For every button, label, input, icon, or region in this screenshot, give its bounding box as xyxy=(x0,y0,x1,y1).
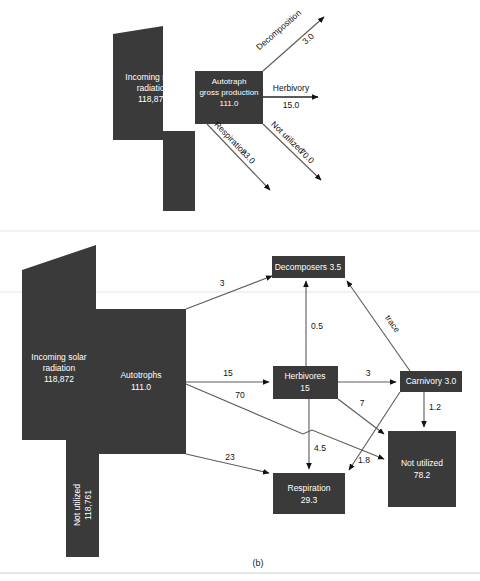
figure-canvas: Incoming solar radiation 118,872 Autotra… xyxy=(0,0,480,581)
svg-text:trace: trace xyxy=(383,313,402,334)
panel-a-flow-not-utilized xyxy=(263,124,321,180)
panel-b-flow-autotrophs-herbivores-label: 15 xyxy=(223,368,233,378)
panel-a-flow-decomposition-value: 3.0 xyxy=(300,31,316,46)
panel-b-flow-carnivory-respiration-label: 1.8 xyxy=(358,455,370,465)
svg-text:Respiration: Respiration xyxy=(288,483,331,493)
panel-a-flow-herbivory-value: 15.0 xyxy=(283,100,300,110)
panel-b-flow-carnivory-notutilized-label: 1.2 xyxy=(429,402,441,412)
svg-text:3.0: 3.0 xyxy=(300,31,316,46)
panel-a-solar-shape xyxy=(113,26,195,211)
panel-a-flow-respiration-value: 23.0 xyxy=(239,147,258,166)
panel-b-respiration-shape xyxy=(273,473,345,514)
svg-text:118,761: 118,761 xyxy=(83,490,93,520)
svg-text:Autotrophs: Autotrophs xyxy=(120,370,161,380)
svg-text:29.3: 29.3 xyxy=(301,495,318,505)
svg-text:15: 15 xyxy=(300,383,310,393)
svg-text:118,872: 118,872 xyxy=(138,94,168,104)
panel-b-not-utilized-shape xyxy=(388,431,456,507)
panel-b-flow-herbivores-respiration-label: 4.5 xyxy=(314,443,326,453)
svg-text:radiation: radiation xyxy=(43,363,76,373)
panel-a: Incoming solar radiation 118,872 Autotra… xyxy=(113,8,324,211)
svg-text:Not utilized: Not utilized xyxy=(72,484,82,526)
figure-caption: (b) xyxy=(253,558,264,568)
panel-b-carnivory-label: Carnivory 3.0 xyxy=(406,376,457,386)
svg-text:Autotraph: Autotraph xyxy=(212,77,247,86)
panel-b-not-utilized-solar-label: Not utilized 118,761 xyxy=(72,484,93,526)
panel-b-flow-herbivores-decomposers-label: 0.5 xyxy=(311,321,323,331)
panel-b-flow-herbivores-notutilized-label: 7 xyxy=(360,398,365,408)
svg-text:radiation: radiation xyxy=(137,83,170,93)
panel-a-flow-decomposition xyxy=(263,17,324,71)
svg-text:Decomposition: Decomposition xyxy=(254,8,303,53)
svg-text:23.0: 23.0 xyxy=(239,147,258,166)
panel-a-flow-herbivory-label: Herbivory xyxy=(273,83,310,93)
svg-text:Incoming solar: Incoming solar xyxy=(125,72,180,82)
panel-b-decomposers-label: Decomposers 3.5 xyxy=(275,262,342,272)
svg-text:111.0: 111.0 xyxy=(220,99,239,108)
panel-b-flow-autotrophs-respiration-label: 23 xyxy=(225,452,235,462)
svg-text:gross production: gross production xyxy=(199,88,258,97)
svg-text:118,872: 118,872 xyxy=(44,374,74,384)
svg-text:Herbivores: Herbivores xyxy=(284,371,325,381)
svg-text:Not utilized: Not utilized xyxy=(401,458,443,468)
panel-a-flow-respiration xyxy=(207,124,270,190)
panel-a-flow-not-utilized-value: 70.0 xyxy=(297,147,316,166)
svg-text:111.0: 111.0 xyxy=(131,382,151,392)
panel-a-flow-decomposition-label: Decomposition xyxy=(254,8,303,53)
panel-b-flow-herbivores-carnivory-label: 3 xyxy=(366,368,371,378)
panel-b-flow-autotrophs-decomposers-label: 3 xyxy=(220,278,225,288)
svg-text:78.2: 78.2 xyxy=(414,470,431,480)
panel-b-flow-carnivory-decomposers-label: trace xyxy=(383,313,402,334)
svg-text:Incoming solar: Incoming solar xyxy=(31,352,86,362)
energy-flow-figure: Incoming solar radiation 118,872 Autotra… xyxy=(0,0,480,581)
panel-b-flow-autotrophs-notutilized-label: 70 xyxy=(235,390,245,400)
svg-text:70.0: 70.0 xyxy=(297,147,316,166)
